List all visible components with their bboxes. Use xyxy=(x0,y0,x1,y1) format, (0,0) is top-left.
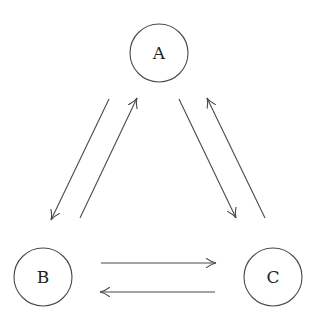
node-b: B xyxy=(14,248,72,306)
edge-b-to-a xyxy=(80,98,137,218)
node-a: A xyxy=(130,24,188,82)
node-label: A xyxy=(152,43,166,63)
node-label: C xyxy=(266,267,279,287)
edge-a-to-b xyxy=(51,99,109,220)
diagram-canvas: ABC xyxy=(0,0,322,330)
node-label: B xyxy=(37,267,50,287)
edge-a-to-c xyxy=(179,99,236,218)
node-c: C xyxy=(244,248,302,306)
edges-group xyxy=(51,98,265,292)
nodes-group: ABC xyxy=(14,24,302,306)
graph-svg: ABC xyxy=(0,0,322,330)
edge-c-to-a xyxy=(207,98,265,218)
